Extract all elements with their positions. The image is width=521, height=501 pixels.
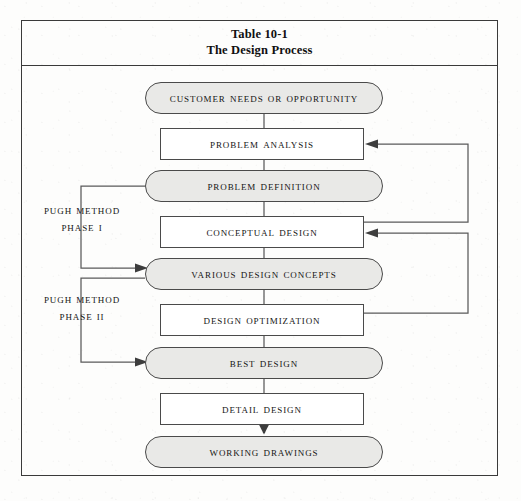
scanned-page: Table 10-1 The Design Process <box>0 0 521 501</box>
feedback-arrowhead-problem-analysis <box>365 140 378 149</box>
node-detail-design[interactable]: Detail design <box>160 393 364 425</box>
pugh-phase-1-line1: Pugh method <box>44 202 120 219</box>
table-number: Table 10-1 <box>231 27 288 42</box>
design-process-flowchart: Customer needs or opportunity Problem an… <box>21 66 498 476</box>
node-label-problem-definition: Problem definition <box>207 178 320 194</box>
node-label-various-design-concepts: Various design concepts <box>191 266 336 282</box>
node-label-working-drawings: Working drawings <box>209 444 318 460</box>
label-pugh-method-phase-1: Pugh method Phase I <box>27 202 137 236</box>
node-conceptual-design[interactable]: Conceptual design <box>160 216 364 248</box>
node-label-best-design: Best design <box>230 355 298 371</box>
pugh-phase-2-line1: Pugh method <box>44 291 120 308</box>
node-label-detail-design: Detail design <box>222 401 302 417</box>
pugh-phase-2-line2: Phase II <box>60 308 105 325</box>
node-label-conceptual-design: Conceptual design <box>206 224 317 240</box>
table-title-cell: Table 10-1 The Design Process <box>21 20 498 66</box>
node-label-customer-needs: Customer needs or opportunity <box>170 90 359 106</box>
node-best-design[interactable]: Best design <box>145 347 383 379</box>
feedback-arrowhead-conceptual-design <box>365 229 378 238</box>
label-pugh-method-phase-2: Pugh method Phase II <box>27 291 137 325</box>
pugh-phase-1-line2: Phase I <box>61 219 102 236</box>
node-working-drawings[interactable]: Working drawings <box>145 436 383 468</box>
node-problem-definition[interactable]: Problem definition <box>145 170 383 202</box>
table-title: The Design Process <box>207 43 313 58</box>
node-label-problem-analysis: Problem analysis <box>210 136 314 152</box>
node-problem-analysis[interactable]: Problem analysis <box>160 128 364 160</box>
node-label-design-optimization: Design optimization <box>204 312 321 328</box>
node-customer-needs[interactable]: Customer needs or opportunity <box>145 82 383 114</box>
node-various-design-concepts[interactable]: Various design concepts <box>145 258 383 290</box>
node-design-optimization[interactable]: Design optimization <box>160 304 364 336</box>
